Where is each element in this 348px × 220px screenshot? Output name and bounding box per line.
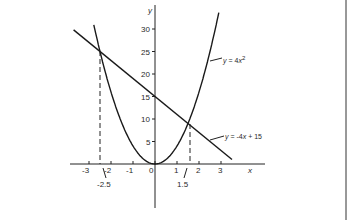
line-label: y = -4x + 15 (224, 133, 262, 141)
y-tick-label: 10 (141, 115, 150, 124)
x-tick-label: 2 (196, 166, 201, 175)
x-tick-label: -1 (126, 166, 134, 175)
x-axis-label: x (247, 166, 253, 175)
x-tick-label: 1 (174, 166, 179, 175)
x-tick-label: -3 (82, 166, 90, 175)
intersection-label-right: 1.5 (177, 180, 189, 189)
straight-line (74, 30, 232, 160)
intersection-label-left: -2.5 (97, 180, 111, 189)
x-tick-label: 3 (218, 166, 223, 175)
y-tick-label: 30 (141, 25, 150, 34)
x-tick-label: 0 (149, 166, 154, 175)
y-tick-label: 5 (146, 138, 151, 147)
y-axis-label: y (147, 6, 153, 15)
parabola-label-arrow (210, 58, 222, 61)
y-tick-label: 15 (141, 93, 150, 102)
y-tick-label: 20 (141, 70, 150, 79)
parabola-curve (94, 13, 219, 164)
line-label-arrow (210, 136, 224, 140)
y-ticks: 51015202530 (141, 25, 155, 147)
arrow-right-intersection (184, 168, 187, 178)
parabola-label: y = 4x2 (222, 55, 246, 65)
y-tick-label: 25 (141, 48, 150, 57)
chart: -3-2-10123 51015202530 y x -2.5 1.5 y = … (0, 0, 348, 220)
